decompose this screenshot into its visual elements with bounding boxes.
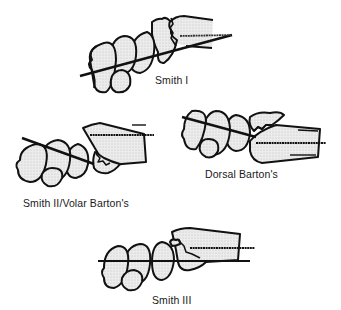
- label-smith-1: Smith I: [155, 74, 188, 86]
- label-smith-3: Smith III: [152, 294, 191, 306]
- panel-smith-1: Smith I: [0, 0, 341, 100]
- label-smith-2: Smith II/Volar Barton's: [23, 197, 129, 209]
- panel-smith-2: Smith II/Volar Barton's: [0, 110, 170, 220]
- label-dorsal-barton: Dorsal Barton's: [205, 168, 278, 180]
- dorsal-barton-illustration: [170, 95, 341, 205]
- panel-smith-3: Smith III: [80, 210, 280, 310]
- panel-dorsal-barton: Dorsal Barton's: [170, 95, 341, 205]
